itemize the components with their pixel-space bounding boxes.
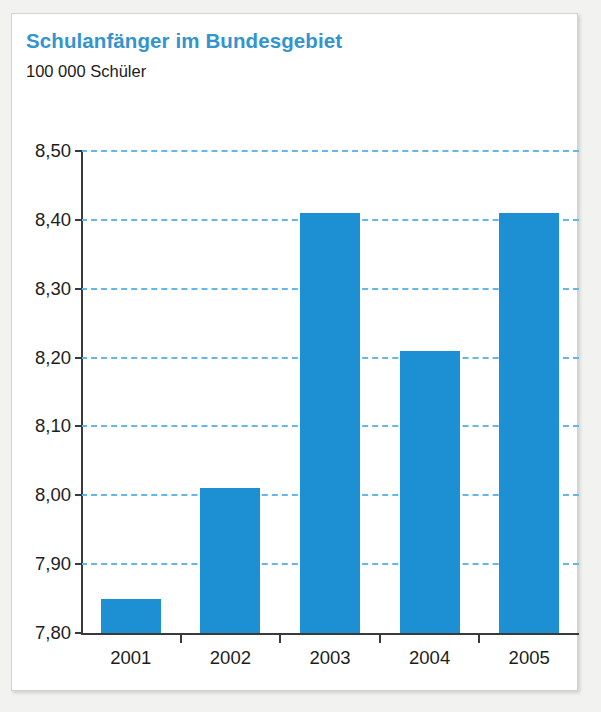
x-axis-label: 2002 <box>185 647 275 669</box>
y-tick-mark <box>75 494 82 496</box>
bar <box>300 213 360 633</box>
y-axis-label: 8,20 <box>12 347 71 369</box>
y-tick-mark <box>75 357 82 359</box>
x-tick-mark <box>379 635 381 643</box>
y-axis-label: 8,10 <box>12 415 71 437</box>
bar <box>499 213 559 633</box>
y-axis-label-text: 8,50 <box>15 140 71 162</box>
bar <box>101 599 161 633</box>
x-axis-label: 2003 <box>285 647 375 669</box>
y-axis-label: 8,30 <box>12 278 71 300</box>
y-axis-label-text: 8,30 <box>15 278 71 300</box>
x-axis-label: 2005 <box>484 647 574 669</box>
plot-area: 8,508,408,308,208,108,007,907,80 2001200… <box>12 14 579 692</box>
y-tick-mark <box>75 632 82 634</box>
y-axis-label: 7,80 <box>12 622 71 644</box>
y-tick-mark <box>75 150 82 152</box>
y-tick-mark <box>75 425 82 427</box>
y-axis-label-text: 8,40 <box>15 209 71 231</box>
y-axis-label-text: 8,00 <box>15 484 71 506</box>
x-tick-mark <box>478 635 480 643</box>
x-axis-label: 2001 <box>86 647 176 669</box>
x-tick-mark <box>279 635 281 643</box>
bar <box>200 488 260 633</box>
gridline <box>81 150 579 152</box>
x-axis-line <box>81 633 579 635</box>
x-axis-label: 2004 <box>385 647 475 669</box>
y-axis-label: 8,00 <box>12 484 71 506</box>
x-tick-mark <box>180 635 182 643</box>
y-axis-label: 7,90 <box>12 553 71 575</box>
chart-panel: Schulanfänger im Bundesgebiet 100 000 Sc… <box>11 13 578 691</box>
y-tick-mark <box>75 219 82 221</box>
y-axis-label-text: 7,90 <box>15 553 71 575</box>
y-axis-label-text: 7,80 <box>15 622 71 644</box>
bar <box>400 351 460 633</box>
y-tick-mark <box>75 563 82 565</box>
y-tick-mark <box>75 288 82 290</box>
y-axis-label: 8,40 <box>12 209 71 231</box>
y-axis-label-text: 8,20 <box>15 347 71 369</box>
page-background: Schulanfänger im Bundesgebiet 100 000 Sc… <box>0 0 601 712</box>
y-axis-label: 8,50 <box>12 140 71 162</box>
y-axis-label-text: 8,10 <box>15 415 71 437</box>
